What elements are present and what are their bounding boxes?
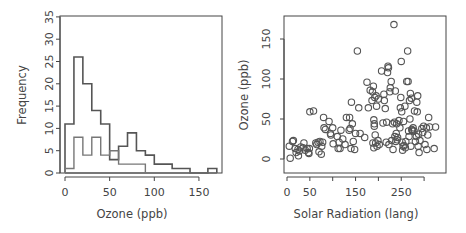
scatter-point xyxy=(342,141,348,147)
scatter-point xyxy=(381,97,387,103)
scatter-point xyxy=(338,127,344,133)
scatter-point xyxy=(425,114,431,120)
scatter-point xyxy=(326,118,332,124)
histogram-y-tick-label: 25 xyxy=(43,55,56,69)
scatter-point xyxy=(391,21,397,27)
histogram-x-axis: 050100150 xyxy=(62,177,210,199)
scatter-point xyxy=(361,134,367,140)
scatter-point xyxy=(414,99,420,105)
scatter-x-tick-label: 0 xyxy=(284,186,291,199)
scatter-point xyxy=(350,138,356,144)
scatter-point xyxy=(330,125,336,131)
scatter-point xyxy=(415,93,421,99)
scatter-y-axis-label: Ozone (ppb) xyxy=(237,59,251,130)
scatter-point xyxy=(398,58,404,64)
scatter-point xyxy=(416,149,422,155)
histogram-bars xyxy=(65,57,217,173)
histogram-y-tick-label: 20 xyxy=(43,77,56,91)
histogram-y-tick-label: 30 xyxy=(43,32,56,46)
scatter-point xyxy=(364,79,370,85)
scatter-points xyxy=(286,21,439,161)
scatter-y-tick-label: 50 xyxy=(260,112,273,126)
scatter-point xyxy=(382,105,388,111)
histogram-y-tick-label: 0 xyxy=(43,170,56,177)
scatter-point xyxy=(431,145,437,151)
scatter-x-axis: 050150250 xyxy=(284,177,425,199)
histogram-y-tick-label: 15 xyxy=(43,99,56,113)
histogram-y-axis-label: Frequency xyxy=(15,65,29,125)
histogram-x-tick-label: 0 xyxy=(62,186,69,199)
figure: 05101520253035 050100150 Frequency Ozone… xyxy=(0,0,466,233)
scatter-x-tick-label: 250 xyxy=(391,186,412,199)
histogram-x-tick-label: 150 xyxy=(188,186,209,199)
histogram-series-subset xyxy=(65,137,145,173)
scatter-point xyxy=(348,99,354,105)
scatter-point xyxy=(390,146,396,152)
scatter-point xyxy=(388,78,394,84)
scatter-point xyxy=(365,105,371,111)
scatter-x-axis-label: Solar Radiation (lang) xyxy=(294,207,419,221)
histogram-y-axis: 05101520253035 xyxy=(43,10,61,177)
scatter-point xyxy=(287,155,293,161)
scatter-point xyxy=(407,116,413,122)
scatter-point xyxy=(356,105,362,111)
histogram-panel: 05101520253035 050100150 Frequency Ozone… xyxy=(15,10,222,221)
scatter-x-tick-label: 50 xyxy=(303,186,317,199)
scatter-point xyxy=(378,68,384,74)
scatter-point xyxy=(354,48,360,54)
histogram-x-axis-label: Ozone (ppb) xyxy=(96,207,167,221)
scatter-y-tick-label: 150 xyxy=(260,29,273,50)
scatter-point xyxy=(400,118,406,124)
scatter-y-tick-label: 0 xyxy=(260,156,273,163)
scatter-y-axis: 050100150 xyxy=(260,29,285,163)
scatter-point xyxy=(330,141,336,147)
histogram-y-tick-label: 35 xyxy=(43,10,56,24)
scatter-x-tick-label: 150 xyxy=(345,186,366,199)
scatter-point xyxy=(404,48,410,54)
histogram-y-tick-label: 5 xyxy=(43,147,56,154)
histogram-plot-box xyxy=(60,16,222,173)
scatter-point xyxy=(398,94,404,100)
histogram-y-tick-label: 10 xyxy=(43,121,56,135)
histogram-x-tick-label: 100 xyxy=(144,186,165,199)
scatter-panel: 050100150 050150250 Ozone (ppb) Solar Ra… xyxy=(237,16,446,221)
scatter-y-tick-label: 100 xyxy=(260,69,273,90)
scatter-point xyxy=(373,103,379,109)
histogram-x-tick-label: 50 xyxy=(103,186,117,199)
